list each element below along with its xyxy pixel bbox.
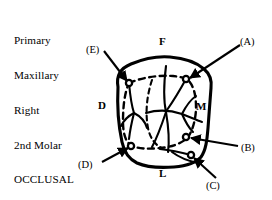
secondary-dashed-groove — [147, 80, 162, 148]
title-line-5: OCCLUSAL — [14, 174, 74, 186]
orientation-label-lingual: L — [159, 167, 166, 179]
leader-A — [190, 45, 240, 78]
callout-label-e: (E) — [86, 44, 99, 55]
callout-label-d: (D) — [78, 159, 92, 170]
leader-D — [102, 148, 128, 162]
marker-D — [128, 143, 134, 149]
figure-canvas: Primary Maxillary Right 2nd Molar OCCLUS… — [0, 0, 272, 200]
marker-A — [183, 76, 189, 82]
marker-C — [188, 152, 194, 158]
leader-B — [191, 138, 238, 146]
title-line-1: Primary — [14, 35, 74, 47]
callout-label-a: (A) — [240, 36, 254, 47]
title-line-3: Right — [14, 105, 74, 117]
figure-title: Primary Maxillary Right 2nd Molar OCCLUS… — [14, 12, 74, 200]
leader-C — [194, 158, 216, 178]
orientation-label-distal: D — [98, 99, 106, 111]
orientation-label-facial: F — [159, 35, 166, 47]
callout-label-c: (C) — [206, 180, 220, 191]
title-line-4: 2nd Molar — [14, 140, 74, 152]
callout-label-b: (B) — [241, 142, 255, 153]
leader-E — [104, 51, 127, 81]
title-line-2: Maxillary — [14, 70, 74, 82]
orientation-label-mesial: M — [196, 100, 206, 112]
marker-B — [183, 134, 189, 140]
